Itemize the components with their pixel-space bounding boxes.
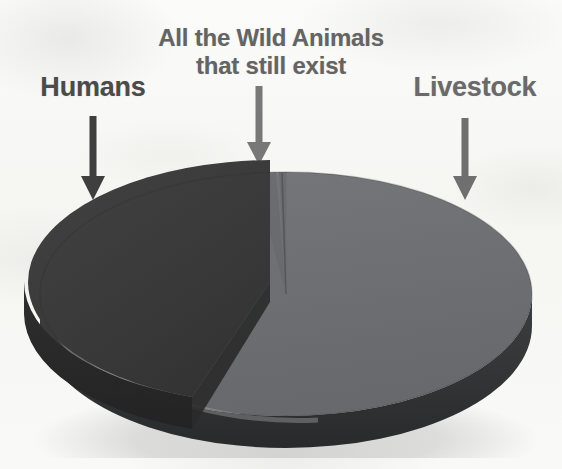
pie-chart-figure: Humans All the Wild Animals that still e… <box>0 0 562 469</box>
label-wild-animals-line1: All the Wild Animals <box>158 24 384 51</box>
label-livestock: Livestock <box>388 72 562 103</box>
label-wild-animals: All the Wild Animals that still exist <box>130 24 412 80</box>
pie-chart-graphic <box>18 158 544 458</box>
arrow-shaft <box>256 86 263 144</box>
label-wild-animals-line2: that still exist <box>196 52 346 79</box>
arrow-down-icon-wild-animals <box>244 86 274 168</box>
